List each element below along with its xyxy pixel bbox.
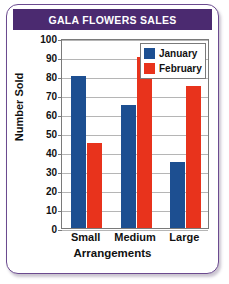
y-axis-tick [58, 192, 62, 193]
y-axis-tick-label: 40 [46, 148, 57, 159]
y-axis-tick [58, 135, 62, 136]
bar-medium-january [121, 105, 136, 229]
y-axis-tick-label: 70 [46, 91, 57, 102]
page-title: GALA FLOWERS SALES [48, 14, 176, 26]
legend-item-january[interactable]: January [144, 46, 202, 61]
bar-medium-february [137, 57, 152, 228]
y-axis-tick-label: 0 [51, 224, 57, 235]
legend-swatch-icon [144, 63, 155, 74]
y-axis-tick [58, 40, 62, 41]
y-axis-tick-label: 90 [46, 53, 57, 64]
y-axis-tick [58, 59, 62, 60]
chart-title-banner: GALA FLOWERS SALES [13, 9, 212, 30]
bar-large-february [186, 86, 201, 229]
y-axis-tick-label: 100 [40, 34, 57, 45]
y-axis-tick [58, 116, 62, 117]
y-axis-tick [58, 154, 62, 155]
chart-card: GALA FLOWERS SALES Number Sold 100908070… [6, 4, 219, 274]
bar-large-january [170, 162, 185, 229]
y-axis-tick-label: 50 [46, 129, 57, 140]
y-axis-tick [58, 211, 62, 212]
x-axis-tick-label: Medium [114, 231, 156, 243]
legend-swatch-icon [144, 48, 155, 59]
y-axis-tick-label: 20 [46, 186, 57, 197]
legend-item-february[interactable]: February [144, 61, 202, 76]
bar-small-february [87, 143, 102, 229]
y-axis-tick [58, 173, 62, 174]
chart-legend: JanuaryFebruary [140, 43, 206, 79]
bar-small-january [71, 76, 86, 228]
y-axis-title: Number Sold [13, 57, 25, 157]
x-axis-tick-label: Large [169, 231, 199, 243]
y-axis-tick-labels: 1009080706050403020100 [27, 39, 57, 229]
y-axis-tick [58, 78, 62, 79]
x-axis-title: Arrangements [13, 247, 212, 259]
bar-group [71, 40, 102, 228]
y-axis-tick-label: 60 [46, 110, 57, 121]
y-axis-tick-label: 30 [46, 167, 57, 178]
legend-label: January [159, 48, 197, 59]
legend-label: February [159, 63, 202, 74]
x-axis-tick-label: Small [71, 231, 100, 243]
y-axis-tick-label: 80 [46, 72, 57, 83]
y-axis-tick-label: 10 [46, 205, 57, 216]
x-axis-tick-labels: SmallMediumLarge [61, 231, 209, 247]
y-axis-tick [58, 97, 62, 98]
